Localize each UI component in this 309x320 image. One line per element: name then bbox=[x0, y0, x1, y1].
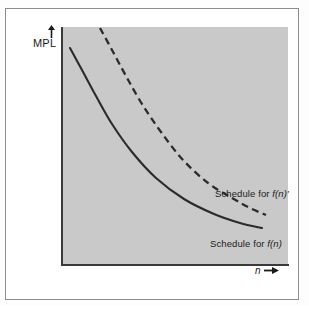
figure-root: MPL n Schedule for f(n)′ Schedule for f(… bbox=[0, 0, 309, 320]
y-axis-line bbox=[61, 27, 63, 266]
y-axis-label: MPL bbox=[33, 37, 56, 49]
curve-label-fn-prefix: Schedule for bbox=[210, 238, 267, 249]
x-axis-label-group: n bbox=[255, 265, 279, 276]
curve-label-fn-prime: Schedule for f(n)′ bbox=[215, 188, 289, 199]
curve-label-fn-prime-prefix: Schedule for bbox=[215, 188, 272, 199]
curve-label-fn-prime-symbol: f(n) bbox=[272, 188, 287, 199]
curve-label-fn: Schedule for f(n) bbox=[210, 238, 282, 249]
right-arrow-icon bbox=[264, 266, 279, 275]
x-axis-label: n bbox=[255, 265, 261, 276]
curve-label-fn-symbol: f(n) bbox=[267, 238, 282, 249]
curve-label-fn-prime-mark: ′ bbox=[287, 188, 289, 199]
scan-artifact bbox=[0, 306, 309, 320]
figure-frame: MPL n Schedule for f(n)′ Schedule for f(… bbox=[5, 8, 299, 300]
plot-area bbox=[62, 27, 288, 265]
